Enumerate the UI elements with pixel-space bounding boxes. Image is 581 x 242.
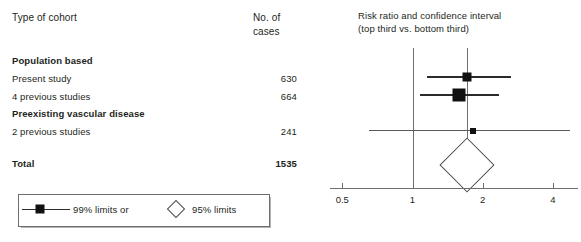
x-axis-tick-label: 0.5 — [336, 194, 349, 205]
x-axis-tick — [413, 183, 414, 188]
x-axis-tick — [553, 183, 554, 188]
column-header-no-of: No. of — [253, 12, 280, 23]
point-estimate-marker — [452, 89, 465, 102]
row-label: 2 previous studies — [12, 126, 90, 137]
row-value-cases: 1535 — [245, 158, 297, 169]
row-value-cases: 241 — [245, 126, 297, 137]
row-label: Population based — [12, 55, 93, 66]
row-label: Total — [12, 158, 35, 169]
point-estimate-marker — [463, 73, 472, 82]
row-value-cases: 664 — [245, 91, 297, 102]
row-label: Preexisting vascular disease — [12, 108, 145, 119]
forest-plot-panel: Risk ratio and confidence interval (top … — [330, 0, 581, 242]
row-label: 4 previous studies — [12, 91, 90, 102]
legend-label-99-limits: 99% limits or — [73, 204, 129, 215]
x-axis-line — [330, 188, 578, 189]
summary-diamond-marker — [440, 137, 495, 192]
x-axis-tick — [483, 183, 484, 188]
x-axis-tick-label: 1 — [410, 194, 415, 205]
row-label: Present study — [12, 73, 71, 84]
column-header-type-of-cohort: Type of cohort — [12, 12, 77, 23]
null-reference-line — [413, 48, 414, 188]
plot-title-line-2: (top third vs. bottom third) — [358, 23, 469, 34]
filled-square-icon — [36, 205, 45, 214]
forest-plot-figure: Type of cohort No. of cases Population b… — [0, 0, 581, 242]
point-estimate-marker — [470, 128, 476, 134]
legend-label-95-limits: 95% limits — [192, 204, 236, 215]
row-value-cases: 630 — [245, 73, 297, 84]
column-header-cases: cases — [253, 26, 280, 37]
plot-title-line-1: Risk ratio and confidence interval — [358, 10, 501, 21]
x-axis-tick-label: 2 — [480, 194, 485, 205]
x-axis-tick — [342, 183, 343, 188]
x-axis-tick-label: 4 — [550, 194, 555, 205]
legend-ci-line-icon-right — [48, 209, 70, 210]
